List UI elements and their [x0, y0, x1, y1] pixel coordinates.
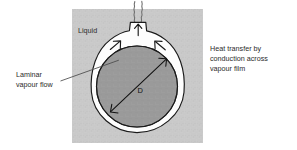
- liquid-label: Liquid: [78, 26, 97, 35]
- diameter-label: D: [138, 86, 144, 95]
- film-boiling-diagram: D Liquid Laminar vapour flow Heat transf…: [0, 0, 297, 150]
- heat-transfer-label-line3: vapour film: [210, 64, 245, 73]
- heat-transfer-label-line2: conduction across: [210, 54, 268, 63]
- laminar-vapour-flow-label-line2: vapour flow: [16, 80, 54, 89]
- heat-transfer-label-line1: Heat transfer by: [210, 44, 262, 53]
- diagram-canvas: D Liquid Laminar vapour flow Heat transf…: [0, 0, 297, 150]
- laminar-vapour-flow-label-line1: Laminar: [16, 70, 43, 79]
